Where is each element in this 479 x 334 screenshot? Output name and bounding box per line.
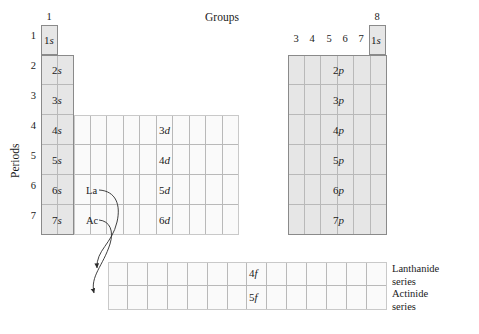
actinium-to-5f-arrow — [93, 220, 111, 293]
periodic-table-block-diagram: Groups Periods 1 2 3 4 5 6 7 1 2 3 4 5 6… — [0, 0, 479, 334]
lanthanum-to-4f-arrow — [97, 190, 118, 268]
series-connector-arrows — [0, 0, 479, 334]
